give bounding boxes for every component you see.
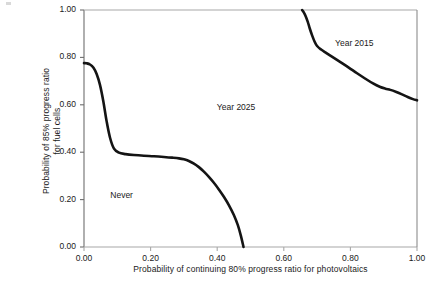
y-axis-label: Probability of 85% progress ratio for fu… [41, 11, 63, 251]
y-tick-label: 0.80 [42, 51, 76, 61]
x-tick-label: 0.40 [200, 253, 234, 263]
x-tick-label: 0.60 [267, 253, 301, 263]
series-line-boundary-2025-2015 [302, 10, 417, 100]
x-tick-label: 0.80 [333, 253, 367, 263]
region-label-year-2015: Year 2015 [335, 38, 373, 48]
y-tick-label: 0.40 [42, 146, 76, 156]
x-tick-label: 1.00 [400, 253, 434, 263]
y-tick-label: 0.20 [42, 194, 76, 204]
y-tick-label: 0.60 [42, 99, 76, 109]
y-axis-label-line2: for fuel cells [52, 11, 63, 251]
y-axis-ticks [80, 10, 84, 247]
x-tick-label: 0.20 [134, 253, 168, 263]
y-axis-label-line1: Probability of 85% progress ratio [41, 68, 51, 194]
x-axis-ticks [84, 247, 417, 251]
scan-artifact [6, 2, 11, 5]
y-tick-label: 1.00 [42, 4, 76, 14]
region-label-never: Never [110, 190, 133, 200]
y-tick-label: 0.00 [42, 241, 76, 251]
x-axis-label: Probability of continuing 80% progress r… [84, 264, 417, 274]
region-label-year-2025: Year 2025 [217, 102, 255, 112]
series-line-boundary-never-2025 [84, 63, 244, 247]
x-tick-label: 0.00 [67, 253, 101, 263]
